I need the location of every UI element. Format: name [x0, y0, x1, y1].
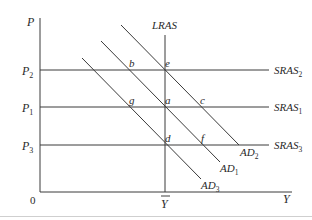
svg-text:Y: Y [161, 197, 169, 211]
point-g-label: g [129, 94, 135, 106]
point-d-label: d [165, 132, 171, 144]
lras-label: LRAS [151, 19, 178, 31]
x-axis-label: Y [283, 192, 291, 206]
p1-label: P1 [21, 101, 33, 117]
sras1-label: SRAS1 [274, 101, 302, 116]
ad2-line [121, 25, 239, 145]
point-e-label: e [165, 57, 170, 69]
ad2-label: AD2 [239, 146, 259, 161]
point-c-label: c [200, 94, 205, 106]
point-b-label: b [129, 57, 135, 69]
ad-as-diagram: P Y 0 Y P2 P1 P3 LRAS SRAS2 SRAS1 SRAS3 … [0, 0, 312, 220]
ad1-label: AD1 [219, 162, 239, 177]
origin-label: 0 [30, 194, 36, 206]
p3-label: P3 [21, 139, 33, 155]
y-axis-label: P [26, 15, 35, 29]
sras2-label: SRAS2 [274, 64, 302, 79]
point-f-label: f [201, 132, 206, 144]
ad3-line [82, 58, 201, 179]
point-a-label: a [165, 94, 171, 106]
p2-label: P2 [21, 64, 33, 80]
sras3-label: SRAS3 [274, 139, 302, 154]
potential-output-label: Y [161, 196, 170, 211]
